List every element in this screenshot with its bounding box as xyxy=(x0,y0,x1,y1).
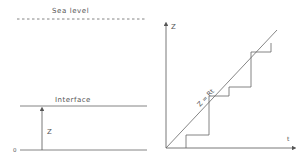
diagram: Sea level Interface 0 Z Z t Z = Rt xyxy=(0,0,306,157)
right-panel: Z t Z = Rt xyxy=(166,23,294,148)
sea-level-label: Sea level xyxy=(52,7,89,15)
rate-line xyxy=(166,30,277,148)
origin-label: 0 xyxy=(13,147,17,153)
staircase-line xyxy=(186,43,271,148)
left-panel: Sea level Interface 0 Z xyxy=(13,7,147,153)
t-axis-label: t xyxy=(287,135,290,142)
z-axis-label: Z xyxy=(171,23,176,31)
z-label: Z xyxy=(47,128,52,136)
interface-label: Interface xyxy=(55,96,91,104)
